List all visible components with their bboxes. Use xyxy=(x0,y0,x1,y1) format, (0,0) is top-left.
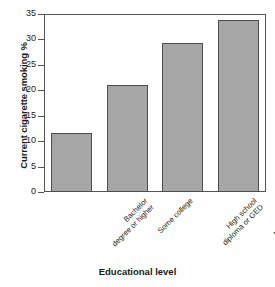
y-axis-tick-label: 25 xyxy=(16,60,36,70)
y-axis-tick-label: 10 xyxy=(16,136,36,146)
y-axis-tick-label: 15 xyxy=(16,111,36,121)
y-axis-tick-label-text: 15 xyxy=(20,111,36,120)
x-axis-category-label-line: No high school xyxy=(270,197,275,241)
y-axis-tick-label: 30 xyxy=(16,34,36,44)
y-axis-tick-label: 5 xyxy=(16,162,36,172)
y-axis-tick-label-text: 35 xyxy=(20,9,36,18)
x-axis-category-label: No high schooldiploma or GED xyxy=(270,197,275,247)
y-axis-tick-label-text: 0 xyxy=(20,187,36,196)
y-axis-tick-label-text: 5 xyxy=(20,162,36,171)
x-axis-title: Educational level xyxy=(0,266,275,277)
y-axis-tick-label-text: 25 xyxy=(20,60,36,69)
y-axis-tick-label-text: 10 xyxy=(20,136,36,145)
plot-area xyxy=(44,14,266,192)
y-axis-tick-label: 0 xyxy=(16,187,36,197)
y-axis-tick xyxy=(38,192,44,193)
y-axis-tick-label: 35 xyxy=(16,9,36,19)
chart-figure: Current cigarette smoking % 051015202530… xyxy=(0,0,275,287)
x-axis-category-label: Bachelordegree or higher xyxy=(104,197,156,249)
y-axis-tick-label-text: 20 xyxy=(20,85,36,94)
x-axis-category-label-line: Some college xyxy=(157,197,196,236)
x-axis-category-label: High schooldiploma or GED xyxy=(215,197,265,247)
y-axis-tick-label: 20 xyxy=(16,85,36,95)
x-axis-category-label: Some college xyxy=(157,197,196,236)
y-axis-tick-label-text: 30 xyxy=(20,34,36,43)
